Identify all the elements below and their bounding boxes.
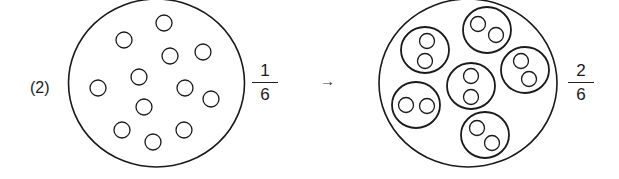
fraction-bar (252, 82, 278, 83)
group-6 (461, 112, 509, 158)
left-small-circles (90, 15, 219, 150)
problem-label: (2) (30, 80, 50, 96)
right-fraction: 2 6 (568, 62, 594, 103)
group-2 (463, 7, 511, 53)
group-1 (401, 27, 449, 73)
right-groups (392, 7, 549, 158)
fraction-bar (568, 82, 594, 83)
left-denominator: 6 (252, 86, 278, 103)
fraction-diagram (0, 0, 619, 179)
right-numerator: 2 (568, 62, 594, 79)
group-4 (447, 63, 495, 109)
left-fraction: 1 6 (252, 62, 278, 103)
right-denominator: 6 (568, 86, 594, 103)
left-numerator: 1 (252, 62, 278, 79)
arrow-icon: → (320, 73, 335, 88)
group-5 (392, 82, 440, 128)
group-3 (501, 47, 549, 93)
